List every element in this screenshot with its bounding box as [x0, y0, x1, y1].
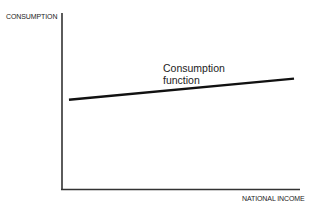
consumption-function-line — [69, 79, 294, 100]
chart-plot — [0, 0, 314, 207]
